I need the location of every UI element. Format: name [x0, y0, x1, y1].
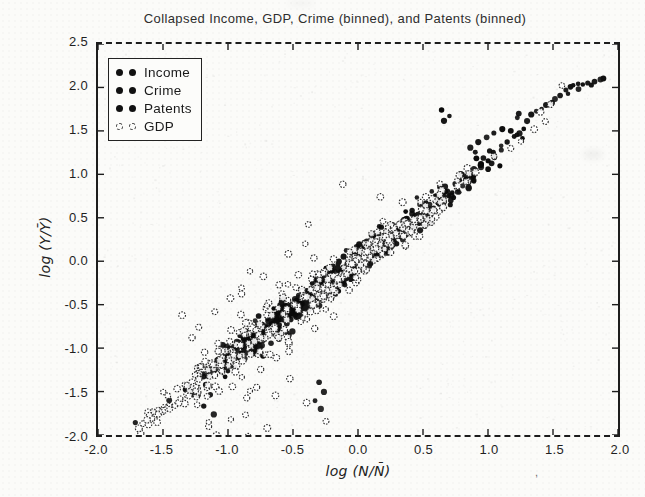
filled-circle-marker-icon — [116, 87, 123, 94]
open-circle-marker-icon — [116, 123, 123, 130]
x-tick-label: 2.0 — [595, 442, 645, 457]
x-tick-label: -2.0 — [71, 442, 121, 457]
legend-item-label: GDP — [144, 120, 174, 134]
x-tick-label: -0.5 — [268, 442, 318, 457]
legend-item-label: Crime — [144, 84, 182, 98]
legend: IncomeCrimePatentsGDP — [108, 58, 202, 141]
filled-circle-marker-icon — [116, 105, 123, 112]
x-tick-label: 1.0 — [464, 442, 514, 457]
scan-smudge — [583, 150, 603, 159]
x-tick-label: -1.0 — [202, 442, 252, 457]
filled-circle-marker-icon — [129, 87, 136, 94]
y-tick-label: -1.5 — [38, 385, 88, 400]
x-tick-label: 1.5 — [530, 442, 580, 457]
filled-circle-marker-icon — [116, 69, 123, 76]
filled-circle-marker-icon — [129, 105, 136, 112]
open-circle-marker-icon — [129, 123, 136, 130]
y-tick-label: -1.0 — [38, 341, 88, 356]
filled-circle-marker-icon — [129, 69, 136, 76]
legend-item-label: Patents — [144, 102, 192, 116]
legend-item-patents: Patents — [116, 100, 192, 117]
y-tick-label: 2.0 — [38, 78, 88, 93]
x-tick-label: -1.5 — [137, 442, 187, 457]
scan-artifact-mark: , — [535, 466, 538, 478]
plot-area: IncomeCrimePatentsGDP — [96, 42, 620, 437]
x-tick-label: 0.0 — [333, 442, 383, 457]
y-tick-label: 2.5 — [38, 34, 88, 49]
chart-title: Collapsed Income, GDP, Crime (binned), a… — [60, 11, 610, 26]
legend-item-label: Income — [144, 66, 190, 80]
y-axis-label: log (Y/Ȳ) — [37, 177, 57, 317]
legend-item-crime: Crime — [116, 82, 192, 99]
scan-smudge — [288, 1, 314, 6]
legend-item-gdp: GDP — [116, 118, 192, 135]
x-tick-label: 0.5 — [399, 442, 449, 457]
x-axis-label: log (N/N̄) — [96, 463, 620, 479]
y-tick-label: 1.5 — [38, 122, 88, 137]
legend-item-income: Income — [116, 64, 192, 81]
